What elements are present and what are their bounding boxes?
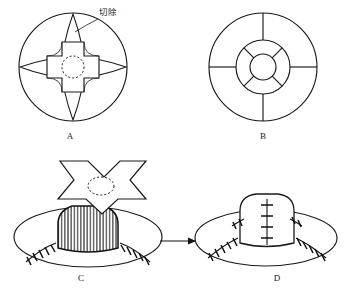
resection-label: 切除 <box>99 7 117 17</box>
panel-label-a: A <box>67 131 74 141</box>
surgical-diagram-svg: 切除 A B <box>0 0 345 291</box>
panel-label-d: D <box>274 273 281 283</box>
panel-d: D <box>195 194 337 283</box>
panel-c: C <box>14 161 162 283</box>
panel-label-b: B <box>260 131 266 141</box>
figure-container: 切除 A B <box>0 0 345 291</box>
transition-arrow <box>160 238 196 245</box>
panel-label-c: C <box>78 273 84 283</box>
panel-a: 切除 A <box>19 7 127 141</box>
panel-b: B <box>209 13 317 141</box>
panel-b-inner-circle <box>250 54 276 80</box>
panel-c-hatched-dome <box>58 206 118 252</box>
